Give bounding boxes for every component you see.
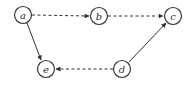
edge-d-c xyxy=(129,23,166,62)
node-d: d xyxy=(114,61,131,78)
edge-a-b xyxy=(32,15,89,16)
node-a-label: a xyxy=(20,10,26,21)
node-c-label: c xyxy=(170,11,176,22)
node-a: a xyxy=(15,7,32,24)
node-e-label: e xyxy=(43,64,49,75)
edge-a-e xyxy=(27,23,41,60)
graph-canvas: a b c d e xyxy=(0,0,193,87)
node-d-label: d xyxy=(119,64,125,75)
node-c: c xyxy=(165,8,182,25)
node-b-label: b xyxy=(96,11,102,22)
node-e: e xyxy=(38,61,55,78)
node-b: b xyxy=(91,8,108,25)
